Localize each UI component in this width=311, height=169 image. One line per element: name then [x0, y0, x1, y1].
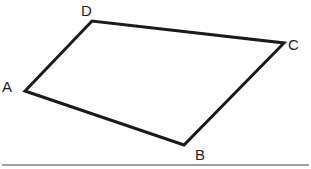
quadrilateral-diagram: A B C D [0, 0, 311, 169]
vertex-label-b: B [195, 146, 205, 163]
vertex-label-d: D [81, 2, 92, 19]
vertex-label-a: A [2, 78, 12, 95]
quadrilateral-abcd [25, 21, 284, 145]
vertex-label-c: C [288, 36, 299, 53]
